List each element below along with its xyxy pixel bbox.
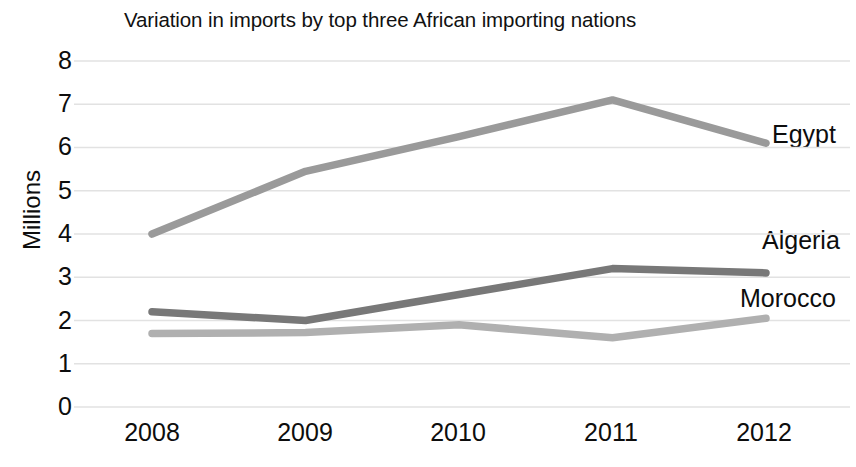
plot-area (0, 0, 856, 467)
series-line-egypt (152, 100, 766, 234)
series-line-morocco (152, 318, 766, 337)
series-lines (152, 100, 766, 338)
line-chart: Variation in imports by top three Africa… (0, 0, 856, 467)
series-line-algeria (152, 269, 766, 321)
gridlines (74, 61, 850, 407)
